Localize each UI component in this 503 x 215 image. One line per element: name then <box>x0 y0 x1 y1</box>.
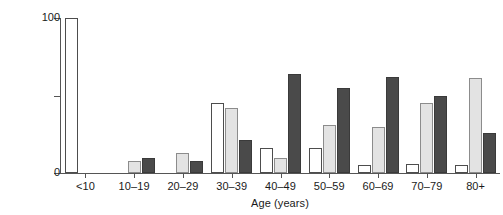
bar-group <box>309 18 350 173</box>
bar-group <box>211 18 252 173</box>
bar-series-dark-gray-3 <box>239 140 252 173</box>
bar-series-white-7 <box>406 164 419 173</box>
bar-series-light-gray-4 <box>274 158 287 174</box>
bar-series-light-gray-5 <box>323 125 336 173</box>
x-tick-mark <box>378 173 379 178</box>
bar-series-light-gray-8 <box>469 78 482 173</box>
bar-series-white-3 <box>211 103 224 173</box>
x-tick-mark <box>427 173 428 178</box>
x-tick-label: 80+ <box>441 180 503 192</box>
y-tick-label: 100 <box>34 11 60 23</box>
y-tick: 100 <box>0 18 60 19</box>
bar-series-dark-gray-6 <box>386 77 399 173</box>
x-tick-mark <box>281 173 282 178</box>
x-tick-mark <box>476 173 477 178</box>
plot-area <box>61 18 500 173</box>
x-tick-mark <box>85 173 86 178</box>
bar-group <box>162 18 203 173</box>
bar-group <box>455 18 496 173</box>
bar-series-white-0 <box>65 18 78 173</box>
bar-chart: Patients (%) 0100 <1010–1920–2930–3940–4… <box>0 0 503 215</box>
bar-series-white-6 <box>358 165 371 173</box>
x-tick-mark <box>232 173 233 178</box>
bar-series-dark-gray-1 <box>142 158 155 174</box>
bar-group <box>114 18 155 173</box>
bar-series-dark-gray-2 <box>190 161 203 173</box>
x-tick-mark <box>134 173 135 178</box>
bar-group <box>358 18 399 173</box>
x-axis-title: Age (years) <box>60 197 500 209</box>
y-tick <box>0 96 60 97</box>
bar-series-dark-gray-5 <box>337 88 350 173</box>
bar-series-light-gray-2 <box>176 153 189 173</box>
bar-series-white-5 <box>309 148 322 173</box>
bar-series-dark-gray-7 <box>434 96 447 174</box>
bar-group <box>406 18 447 173</box>
bar-group <box>65 18 106 173</box>
bar-series-white-4 <box>260 148 273 173</box>
x-tick-mark <box>329 173 330 178</box>
bar-series-light-gray-6 <box>372 127 385 174</box>
x-tick-mark <box>183 173 184 178</box>
bar-series-dark-gray-8 <box>483 133 496 173</box>
bar-series-white-8 <box>455 165 468 173</box>
y-tick-label: 0 <box>34 166 60 178</box>
bar-group <box>260 18 301 173</box>
y-tick: 0 <box>0 173 60 174</box>
bar-series-dark-gray-4 <box>288 74 301 173</box>
bar-series-light-gray-1 <box>128 161 141 173</box>
bar-series-light-gray-3 <box>225 108 238 173</box>
bar-series-light-gray-7 <box>420 103 433 173</box>
